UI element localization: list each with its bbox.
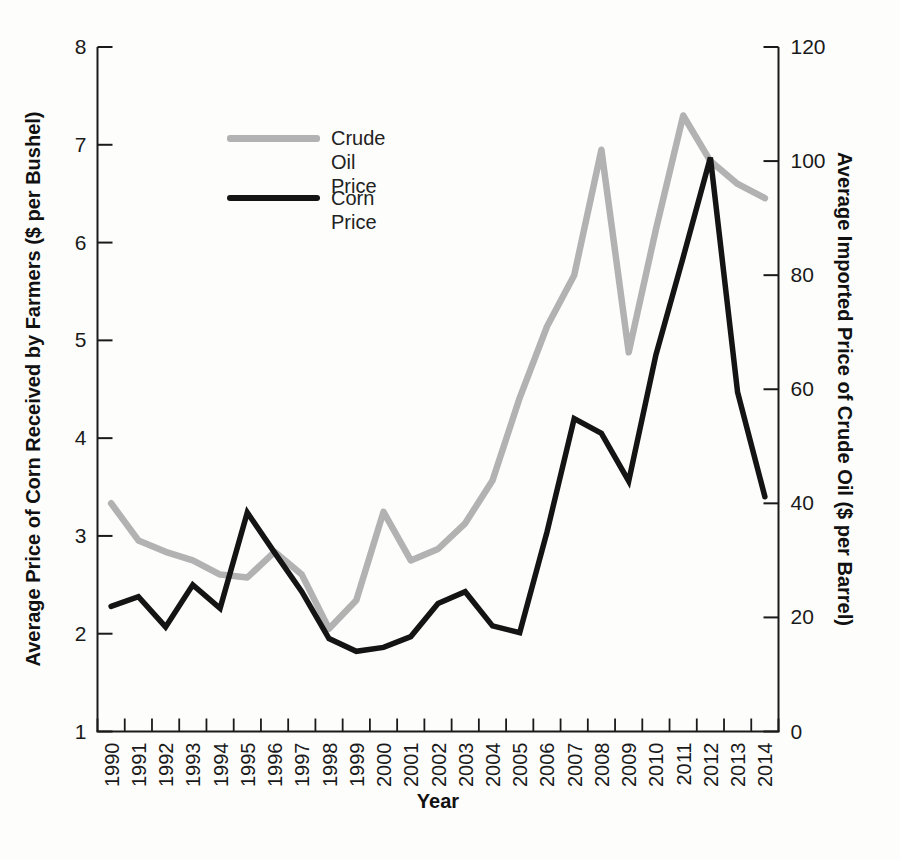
x-axis-labels: 1990199119921993199419951996199719981999… — [101, 743, 777, 788]
year-label: 2000 — [373, 743, 395, 788]
right-tick-label: 60 — [791, 377, 814, 400]
year-label: 1993 — [182, 743, 204, 788]
year-label: 2010 — [645, 743, 667, 788]
year-label: 2004 — [482, 743, 504, 788]
corn-legend-swatch — [227, 195, 320, 201]
corn-price-line — [111, 158, 765, 652]
right-tick-label: 0 — [791, 720, 803, 743]
year-label: 1990 — [101, 743, 123, 788]
year-label: 2005 — [509, 743, 531, 788]
year-label: 2008 — [591, 743, 613, 788]
right-axis-ticks: 020406080100120 — [764, 35, 826, 743]
right-tick-label: 40 — [791, 491, 814, 514]
left-axis-title: Average Price of Corn Received by Farmer… — [20, 44, 46, 734]
x-axis-ticks — [98, 719, 779, 732]
left-tick-label: 3 — [75, 524, 87, 547]
year-label: 2003 — [455, 743, 477, 788]
year-label: 2001 — [400, 743, 422, 788]
left-tick-label: 6 — [75, 231, 87, 254]
right-tick-label: 20 — [791, 605, 814, 628]
left-tick-label: 2 — [75, 622, 87, 645]
plot-canvas: 1234567802040608010012019901991199219931… — [0, 0, 900, 860]
year-label: 2013 — [727, 743, 749, 788]
year-label: 1994 — [210, 743, 232, 788]
year-label: 1996 — [264, 743, 286, 788]
year-label: 2014 — [754, 743, 776, 788]
year-label: 2011 — [673, 743, 695, 786]
crude-oil-legend-swatch — [227, 135, 320, 142]
year-label: 2002 — [428, 743, 450, 788]
year-label: 1992 — [155, 743, 177, 788]
year-label: 2012 — [700, 743, 722, 788]
crude-oil-price-line — [111, 116, 765, 629]
left-tick-label: 5 — [75, 328, 87, 351]
x-axis-title: Year — [0, 788, 876, 814]
year-label: 2006 — [536, 743, 558, 788]
year-label: 1991 — [128, 743, 150, 788]
right-axis-title: Average Imported Price of Crude Oil ($ p… — [832, 44, 858, 734]
year-label: 1997 — [291, 743, 313, 788]
year-label: 2007 — [564, 743, 586, 788]
right-tick-label: 80 — [791, 263, 814, 286]
year-label: 1999 — [346, 743, 368, 788]
corn-legend-label: Corn Price — [331, 186, 377, 234]
left-tick-label: 4 — [75, 426, 87, 449]
left-tick-label: 1 — [75, 720, 87, 743]
right-tick-label: 100 — [791, 149, 826, 172]
chart: 1234567802040608010012019901991199219931… — [0, 0, 900, 860]
right-tick-label: 120 — [791, 35, 826, 58]
left-tick-label: 7 — [75, 133, 87, 156]
left-axis-ticks: 12345678 — [75, 35, 113, 743]
left-tick-label: 8 — [75, 35, 87, 58]
year-label: 1998 — [319, 743, 341, 788]
year-label: 2009 — [618, 743, 640, 788]
year-label: 1995 — [237, 743, 259, 788]
